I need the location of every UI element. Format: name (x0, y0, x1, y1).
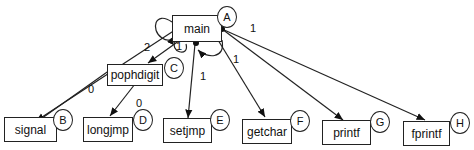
badge-e: E (210, 109, 230, 131)
edge-main-setjmp (188, 44, 195, 118)
node-label: pophdigit (111, 68, 160, 82)
badge-label: G (376, 116, 385, 128)
node-label: longjmp (87, 123, 129, 137)
edge-label-setjmp-return: 1 (200, 70, 206, 82)
node-pophdigit[interactable]: pophdigit (107, 64, 163, 86)
edge-main-getchar (218, 40, 265, 117)
edge-main-fprintf (222, 29, 425, 120)
badge-label: E (216, 114, 223, 126)
badge-label: D (139, 114, 147, 126)
node-printf[interactable]: printf (322, 120, 371, 145)
node-setjmp[interactable]: setjmp (163, 118, 212, 143)
node-label: printf (333, 126, 360, 140)
node-label: setjmp (170, 124, 205, 138)
badge-c: C (164, 57, 184, 79)
edge-label-main-fprintf: 1 (250, 22, 256, 34)
node-label: main (184, 22, 210, 36)
edge-pophdigit-signal (38, 70, 110, 121)
node-longjmp[interactable]: longjmp (83, 117, 133, 142)
badge-label: B (59, 114, 66, 126)
node-getchar[interactable]: getchar (242, 119, 292, 144)
edge-label-main-loop-left: 2 (144, 41, 150, 53)
node-label: fprintf (411, 127, 441, 141)
badge-f: F (290, 110, 310, 132)
badge-label: H (456, 117, 464, 129)
node-main[interactable]: main (172, 15, 222, 42)
badge-b: B (53, 109, 73, 131)
badge-g: G (370, 111, 390, 133)
edge-label-main-pophdigit: 1 (176, 40, 182, 52)
edge-label-pophdigit-signal: 0 (88, 83, 94, 95)
badge-label: F (297, 115, 304, 127)
badge-d: D (133, 109, 153, 131)
node-label: signal (15, 123, 46, 137)
edge-label-pophdigit-longjmp: 0 (136, 97, 142, 109)
badge-h: H (450, 112, 470, 134)
node-fprintf[interactable]: fprintf (403, 121, 450, 146)
node-signal[interactable]: signal (4, 117, 57, 142)
badge-label: A (223, 11, 230, 23)
badge-label: C (170, 62, 178, 74)
edge-pophdigit-longjmp (110, 84, 135, 116)
edge-label-main-loop-right: 1 (233, 53, 239, 65)
node-label: getchar (247, 125, 287, 139)
badge-a: A (217, 6, 237, 28)
